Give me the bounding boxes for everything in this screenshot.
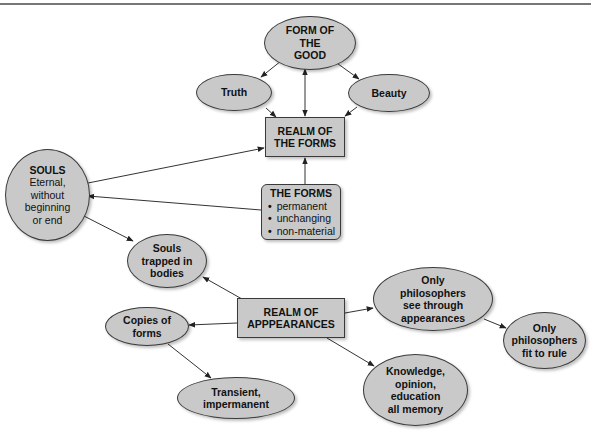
edge-souls-realm bbox=[88, 148, 264, 183]
bullet-item: non-material bbox=[268, 225, 335, 238]
node-title: SOULS bbox=[29, 164, 65, 177]
node-text: appearances bbox=[401, 312, 465, 325]
node-text: Only bbox=[533, 322, 556, 335]
node-text: trapped in bbox=[142, 255, 193, 268]
edge-theforms-souls bbox=[88, 196, 261, 210]
node-text: education bbox=[391, 390, 441, 403]
edge-appearances-copies bbox=[189, 323, 237, 325]
edge-beauty-realm bbox=[345, 107, 357, 116]
node-text: Truth bbox=[221, 86, 247, 99]
node-text: impermanent bbox=[203, 398, 269, 411]
edge-good-truth bbox=[261, 61, 281, 77]
node-truth: Truth bbox=[196, 74, 272, 111]
node-realm-of-the-forms: REALM OF THE FORMS bbox=[265, 117, 345, 157]
edge-souls-trapped bbox=[82, 215, 133, 241]
node-realm-of-appearances: REALM OF APPPEARANCES bbox=[237, 298, 345, 338]
node-copies-of-forms: Copies of forms bbox=[105, 307, 189, 346]
node-the-forms: THE FORMS permanent unchanging non-mater… bbox=[261, 184, 341, 240]
bullet-item: permanent bbox=[268, 200, 327, 213]
node-text: philosophers bbox=[400, 287, 466, 300]
edge-copies-transient bbox=[168, 344, 211, 378]
node-souls: SOULS Eternal, without beginning or end bbox=[5, 149, 90, 241]
node-text: REALM OF bbox=[264, 306, 319, 319]
node-souls-trapped: Souls trapped in bodies bbox=[127, 234, 207, 288]
node-text: Beauty bbox=[371, 87, 406, 100]
node-philosophers-see-through: Only philosophers see through appearance… bbox=[373, 267, 493, 331]
node-text: beginning bbox=[25, 201, 71, 214]
node-text: Knowledge, bbox=[386, 365, 445, 378]
node-text: REALM OF bbox=[278, 125, 333, 138]
node-beauty: Beauty bbox=[348, 74, 430, 112]
node-text: FORM OF bbox=[286, 24, 334, 37]
bullet-item: unchanging bbox=[268, 212, 331, 225]
node-text: THE bbox=[300, 37, 321, 50]
node-transient: Transient, impermanent bbox=[177, 377, 295, 419]
node-text: GOOD bbox=[294, 49, 326, 62]
node-text: forms bbox=[132, 327, 161, 340]
node-text: philosophers bbox=[512, 334, 578, 347]
node-text: or end bbox=[33, 214, 63, 227]
node-text: fit to rule bbox=[522, 347, 567, 360]
node-text: all memory bbox=[388, 403, 443, 416]
node-text: opinion, bbox=[395, 378, 436, 391]
node-text: without bbox=[31, 189, 64, 202]
node-text: see through bbox=[403, 299, 463, 312]
node-text: bodies bbox=[150, 267, 184, 280]
node-title: THE FORMS bbox=[270, 187, 332, 200]
edge-philosophers-rule bbox=[484, 319, 506, 328]
edge-appearances-philosophers bbox=[345, 308, 373, 313]
node-philosophers-fit-to-rule: Only philosophers fit to rule bbox=[503, 312, 586, 369]
node-text: Souls bbox=[153, 242, 182, 255]
edge-appearances-trapped bbox=[203, 277, 242, 299]
node-form-of-the-good: FORM OF THE GOOD bbox=[264, 16, 356, 70]
node-text: Eternal, bbox=[29, 176, 65, 189]
node-text: APPPEARANCES bbox=[247, 318, 335, 331]
node-text: Copies of bbox=[123, 314, 171, 327]
node-text: Transient, bbox=[211, 386, 261, 399]
node-text: THE FORMS bbox=[274, 137, 336, 150]
node-knowledge: Knowledge, opinion, education all memory bbox=[363, 354, 468, 426]
edge-truth-realm bbox=[266, 108, 276, 117]
edge-appearances-knowledge bbox=[327, 338, 374, 366]
node-text: Only bbox=[421, 274, 444, 287]
